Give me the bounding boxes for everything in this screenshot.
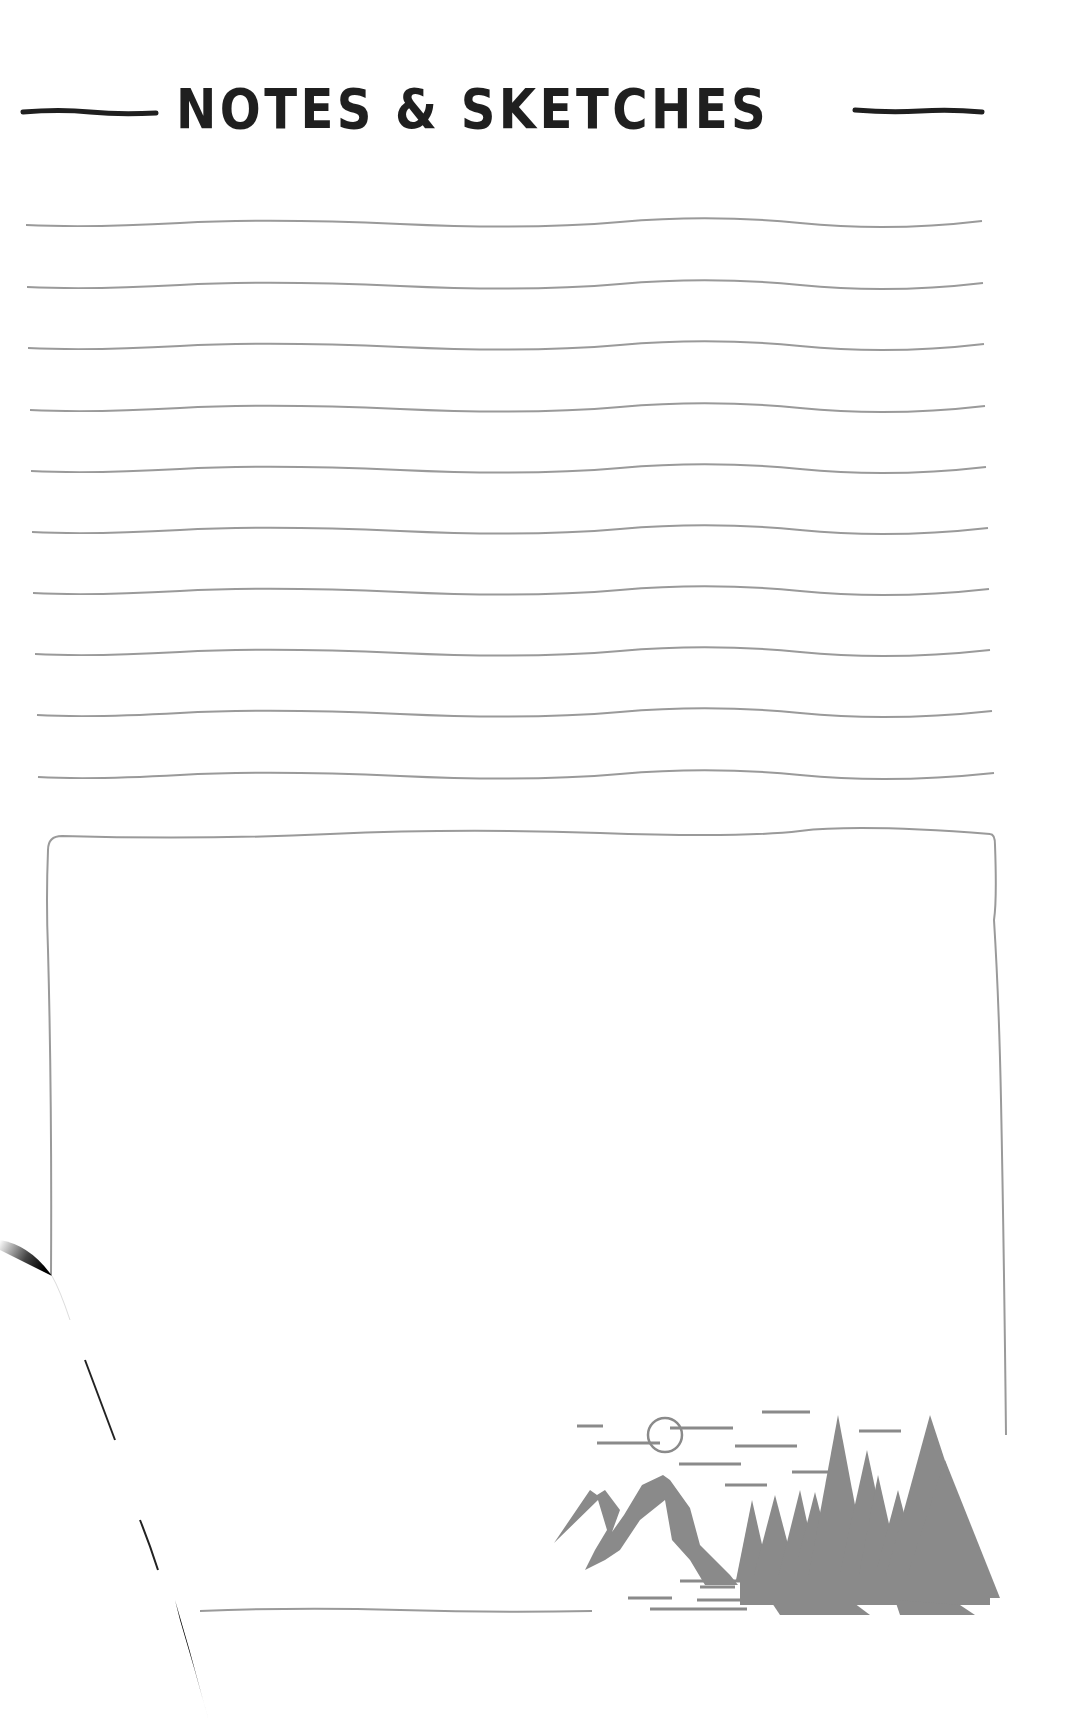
page-artwork [0,0,1077,1720]
mountains [554,1475,738,1585]
mountain-forest-illustration [554,1412,1000,1615]
ruled-lines [26,218,994,779]
title-row: NOTES & SKETCHES [0,70,1077,150]
page-title: NOTES & SKETCHES [176,76,740,142]
moon-icon [648,1418,682,1452]
notes-page: NOTES & SKETCHES [0,0,1077,1720]
page-curl [0,1240,208,1718]
